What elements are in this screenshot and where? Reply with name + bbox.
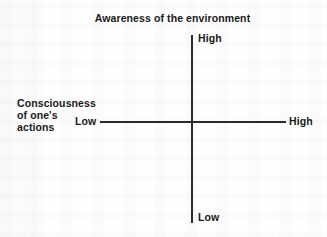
vertical-axis-low-label: Low [198,211,219,223]
vertical-axis-line [191,35,193,223]
horizontal-axis-title-line-3: actions [17,121,96,133]
horizontal-axis-title-line-1: Consciousness [17,97,96,109]
vertical-axis-high-label: High [198,32,222,44]
horizontal-axis-line [100,121,286,123]
horizontal-axis-title: Consciousness of one's actions [17,97,96,133]
diagram-canvas: Awareness of the environment High Low Lo… [0,0,327,237]
horizontal-axis-title-line-2: of one's [17,109,96,121]
horizontal-axis-high-label: High [289,115,313,127]
chart-title: Awareness of the environment [0,12,327,24]
